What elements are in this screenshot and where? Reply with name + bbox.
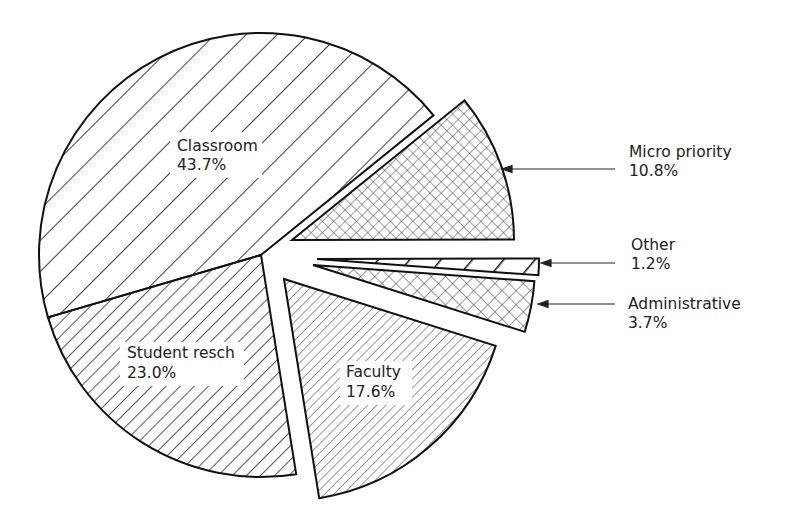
arrowhead-other [541, 260, 551, 267]
label-administrative: Administrative 3.7% [628, 295, 741, 332]
label-faculty: Faculty 17.6% [340, 361, 412, 405]
label-admin-name: Administrative [628, 295, 741, 313]
label-other-name: Other [631, 236, 676, 254]
label-faculty-name: Faculty [346, 363, 401, 381]
label-micro-name: Micro priority [629, 143, 732, 161]
label-other: Other 1.2% [631, 236, 676, 273]
label-classroom-pct: 43.7% [177, 156, 226, 174]
label-micro-pct: 10.8% [629, 162, 678, 180]
label-micro-priority: Micro priority 10.8% [629, 143, 732, 180]
label-other-pct: 1.2% [631, 255, 670, 273]
label-admin-pct: 3.7% [628, 314, 667, 332]
label-classroom-name: Classroom [177, 137, 258, 155]
pie-slices [39, 33, 539, 498]
label-student-name: Student resch [127, 344, 235, 362]
label-faculty-pct: 17.6% [346, 383, 395, 401]
label-classroom: Classroom 43.7% [170, 132, 262, 178]
arrowhead-administrative [538, 301, 548, 308]
pie-chart: Classroom 43.7% Student resch 23.0% Facu… [0, 0, 791, 526]
label-student-resch: Student resch 23.0% [120, 342, 244, 386]
label-student-pct: 23.0% [127, 364, 176, 382]
